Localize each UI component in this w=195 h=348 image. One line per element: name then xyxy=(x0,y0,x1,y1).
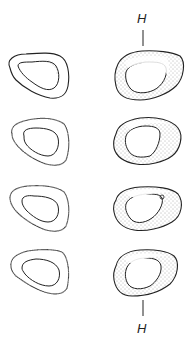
left-section-4 xyxy=(11,250,69,294)
cross-section-figure xyxy=(0,0,195,348)
top-label-h: H xyxy=(137,12,146,25)
right-section-3 xyxy=(114,187,182,231)
bottom-label-h: H xyxy=(137,322,146,335)
right-section-4 xyxy=(114,250,178,296)
right-section-2 xyxy=(114,117,181,164)
right-section-1 xyxy=(115,51,184,100)
left-section-3 xyxy=(10,186,69,232)
left-section-2 xyxy=(12,118,69,165)
left-section-1 xyxy=(9,53,69,98)
